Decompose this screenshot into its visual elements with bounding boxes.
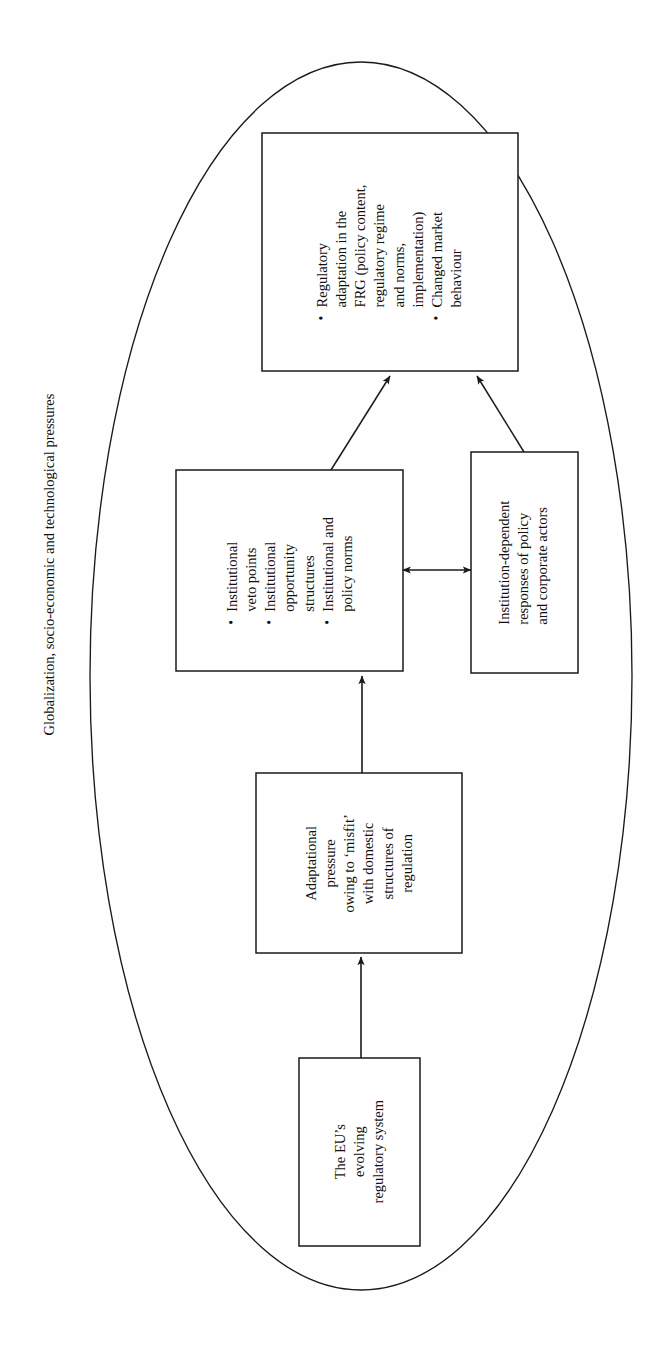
node-regulatory-adaptation[interactable]: Regulatory adaptation in the FRG (policy… (262, 133, 518, 371)
text-line: regulation (398, 834, 414, 893)
text-line: and corporate actors (535, 507, 551, 625)
bullet-line: Regulatory (315, 242, 331, 306)
outer-pressures-label-text: Globalization, socio-economic and techno… (41, 394, 57, 736)
bullet-line: veto points (243, 547, 259, 611)
bullet-line: and norms, (391, 242, 407, 306)
bullet-line: Institutional (224, 541, 240, 611)
node-eu-regulatory-system[interactable]: The EU’s evolving regulatory system (299, 1058, 420, 1246)
eu-regulatory-system-text: The EU’s evolving regulatory system (331, 1100, 388, 1204)
institutional-factors-bullets: Institutional veto points Institutional … (223, 517, 357, 625)
text-line: The EU’s (332, 1124, 348, 1179)
node-institution-dependent-responses[interactable]: Institution-dependent responses of polic… (471, 452, 578, 673)
institution-dependent-responses-text: Institution-dependent responses of polic… (496, 500, 553, 624)
node-institutional-factors[interactable]: Institutional veto points Institutional … (176, 470, 403, 671)
adaptational-pressure-text: Adaptational pressure owing to ‘misfit’ … (302, 814, 417, 912)
bullet-line: opportunity (281, 544, 297, 612)
bullet-line: adaptation in the (334, 210, 350, 307)
bullet-line: Institutional and (319, 517, 335, 612)
text-line: evolving (351, 1127, 367, 1178)
bullet-line: regulatory regime (372, 203, 388, 306)
text-line: structures of (379, 827, 395, 899)
text-line: regulatory system (370, 1100, 386, 1204)
bullet-line: policy norms (338, 535, 354, 611)
bullet-line: FRG (policy content, (353, 184, 369, 307)
bullet-line: structures (300, 555, 316, 611)
bullet-line: behaviour (448, 249, 464, 307)
bullet-line: Changed market (429, 211, 445, 306)
text-line: with domestic (360, 822, 376, 904)
bullet-line: Institutional (262, 541, 278, 611)
bullet-line: implementation) (410, 211, 426, 307)
bullet-item: Institutional and policy norms (318, 517, 356, 625)
regulatory-adaptation-bullets: Regulatory adaptation in the FRG (policy… (314, 184, 467, 320)
text-line: responses of policy (516, 513, 532, 625)
text-line: Adaptational (303, 826, 319, 901)
text-line: owing to ‘misfit’ (341, 814, 357, 912)
bullet-item: Changed market behaviour (428, 184, 466, 320)
edge-actors-to-outcome (477, 376, 524, 452)
text-line: pressure (322, 839, 338, 887)
bullet-item: Institutional veto points (223, 517, 261, 625)
text-line: Institution-dependent (497, 500, 513, 624)
figure-canvas: Globalization, socio-economic and techno… (0, 0, 661, 1354)
bullet-item: Institutional opportunity structures (261, 517, 318, 625)
node-adaptational-pressure[interactable]: Adaptational pressure owing to ‘misfit’ … (256, 773, 462, 953)
bullet-item: Regulatory adaptation in the FRG (policy… (314, 184, 429, 320)
edge-institutions-to-outcome (331, 376, 390, 470)
